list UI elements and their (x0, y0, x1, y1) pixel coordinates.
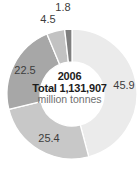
donut-chart-canvas: 45.925.422.54.51.8 (0, 0, 139, 169)
segment-value-label-1.8: 1.8 (55, 1, 70, 13)
segment-value-label-22.5: 22.5 (14, 64, 35, 76)
segment-value-label-4.5: 4.5 (40, 13, 55, 25)
donut-chart: 45.925.422.54.51.8 2006 Total 1,131,907 … (0, 0, 139, 169)
donut-segment-25.4 (9, 102, 89, 159)
segment-value-label-45.9: 45.9 (113, 79, 134, 91)
segment-value-label-25.4: 25.4 (38, 132, 59, 144)
